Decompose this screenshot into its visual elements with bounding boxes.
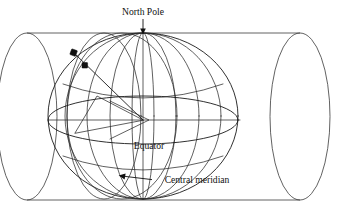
meridian-arc-4 [67, 33, 177, 199]
equator-annotation: Equator [134, 140, 165, 151]
meridian-arc-5 [67, 33, 141, 199]
cylindrical-projection-figure: North Pole Equator Central meridian [0, 0, 350, 216]
central-meridian-leader-line [125, 176, 152, 179]
north-pole-annotation: North Pole [122, 6, 164, 34]
north-pole-arrowhead [140, 29, 146, 35]
cylinder-right-ellipse [270, 33, 330, 200]
central-meridian-label: Central meridian [165, 174, 230, 185]
projection-diagram: North Pole Equator Central meridian [0, 0, 350, 216]
projection-ray-group [70, 49, 143, 120]
sphere-surface-point-marker [82, 63, 88, 69]
equator-label: Equator [134, 140, 165, 151]
equatorial-chord-triangle [75, 96, 143, 133]
north-pole-label: North Pole [122, 6, 164, 17]
